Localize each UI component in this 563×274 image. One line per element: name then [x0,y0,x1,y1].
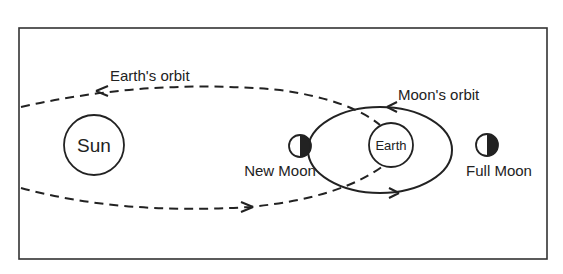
moon-orbit-label: Moon's orbit [398,86,480,103]
earth-orbit-label: Earth's orbit [110,67,190,84]
earth-label: Earth [375,138,406,153]
orbit-diagram: Sun Earth New Moon Full Moon Earth's orb… [0,0,563,274]
full-moon-icon [476,134,498,156]
earth-orbit-top-path [21,86,380,125]
earth-orbit-bottom-path [21,166,383,209]
new-moon-label: New Moon [244,162,316,179]
new-moon-icon [289,135,311,157]
sun-label: Sun [77,135,111,156]
earth-orbit-arrow-left-icon [96,86,108,96]
full-moon-label: Full Moon [466,162,532,179]
